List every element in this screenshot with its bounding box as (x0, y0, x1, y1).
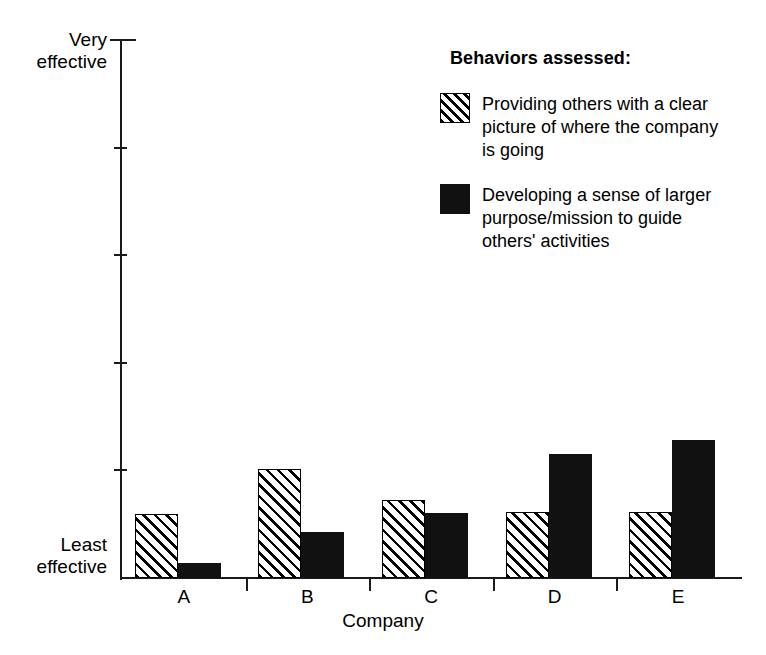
x-axis-label-c: C (401, 586, 461, 608)
x-axis-separator-tick (616, 578, 618, 591)
y-axis-tick (114, 254, 127, 256)
chart-page: Very effective Least effective Company B… (0, 0, 766, 655)
legend-entry-solid-label: Developing a sense of larger purpose/mis… (482, 184, 732, 253)
x-axis-label-e: E (648, 586, 708, 608)
y-axis-tick (114, 362, 127, 364)
bar-c-series1 (382, 500, 425, 578)
y-axis-tick (110, 39, 136, 41)
bar-d-series1 (506, 512, 549, 578)
bar-a-series1 (135, 514, 178, 578)
y-axis-low-label: Least effective (2, 534, 107, 578)
bar-c-series2 (425, 513, 468, 578)
x-axis-separator-tick (493, 578, 495, 591)
y-axis-high-label: Very effective (2, 29, 107, 73)
y-axis-high-label-line2: effective (2, 51, 107, 73)
hatched-swatch-icon (440, 93, 470, 123)
legend-title: Behaviors assessed: (450, 48, 740, 69)
legend-entry-hatched: Providing others with a clear picture of… (440, 93, 740, 162)
x-axis-separator-tick (246, 578, 248, 591)
solid-swatch-icon (440, 184, 470, 214)
chart-legend: Behaviors assessed: Providing others wit… (440, 48, 740, 275)
bar-b-series1 (258, 469, 301, 578)
x-axis-label-b: B (277, 586, 337, 608)
bar-e-series2 (672, 440, 715, 578)
x-axis-label-a: A (154, 586, 214, 608)
bar-a-series2 (178, 563, 221, 578)
y-axis-tick (114, 469, 127, 471)
y-axis-low-label-line1: Least (2, 534, 107, 556)
bar-d-series2 (549, 454, 592, 578)
y-axis-tick (114, 147, 127, 149)
y-axis-high-label-line1: Very (2, 29, 107, 51)
x-axis-label-d: D (525, 586, 585, 608)
legend-entry-solid: Developing a sense of larger purpose/mis… (440, 184, 740, 253)
bar-b-series2 (301, 532, 344, 578)
bar-e-series1 (629, 512, 672, 578)
legend-entry-hatched-label: Providing others with a clear picture of… (482, 93, 732, 162)
x-axis-separator-tick (369, 578, 371, 591)
y-axis-low-label-line2: effective (2, 556, 107, 578)
x-axis-title: Company (0, 610, 766, 632)
